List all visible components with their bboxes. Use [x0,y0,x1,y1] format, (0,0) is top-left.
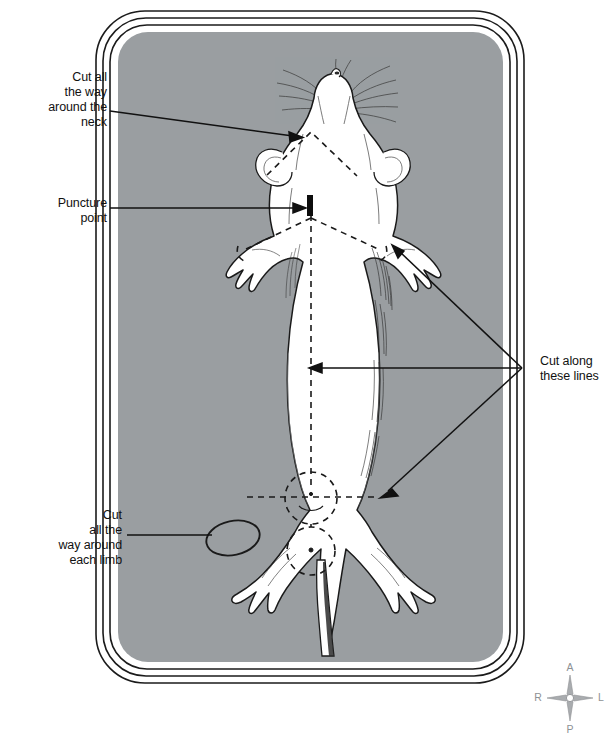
puncture-point-marker [307,195,313,216]
rat-dissection-figure: Cut all the way around the neck Puncture… [0,0,616,746]
compass-label-left: L [594,691,608,703]
anatomical-orientation-compass [547,675,593,721]
compass-label-anterior: A [563,661,577,673]
compass-label-posterior: P [563,723,577,735]
label-cut-along-these-lines: Cut along these lines [540,354,614,384]
compass-label-right: R [531,691,545,703]
label-cut-around-each-limb: Cut all the way around each limb [10,508,122,568]
label-cut-around-neck: Cut all the way around the neck [7,70,107,130]
label-puncture-point: Puncture point [7,196,107,226]
